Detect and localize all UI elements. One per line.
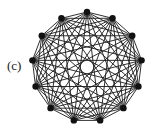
graph-node	[39, 33, 45, 39]
graph-node	[97, 117, 103, 123]
graph-node	[135, 83, 141, 89]
graph-node	[120, 105, 126, 111]
complete-graph-diagram	[0, 0, 152, 128]
graph-node	[58, 15, 64, 21]
graph-node	[71, 117, 77, 123]
graph-node	[47, 105, 53, 111]
graph-node	[84, 9, 90, 15]
graph-node	[32, 83, 38, 89]
graph-node	[29, 57, 35, 63]
graph-node	[129, 33, 135, 39]
graph-node	[109, 15, 115, 21]
graph-nodes	[29, 9, 145, 124]
graph-node	[138, 57, 144, 63]
graph-edges	[32, 12, 141, 120]
